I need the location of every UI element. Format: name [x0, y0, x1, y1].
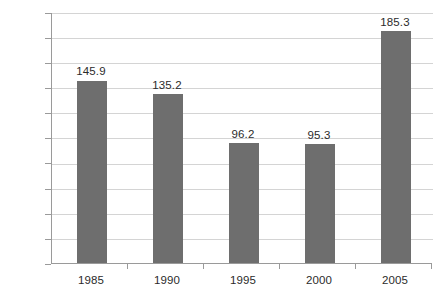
x-tick-mark	[127, 264, 128, 269]
bar-1995	[229, 143, 259, 263]
x-tick-mark	[355, 264, 356, 269]
y-tick-mark	[45, 264, 51, 265]
x-tick-mark	[203, 264, 204, 269]
gridline	[52, 13, 433, 14]
x-tick-label-1995: 1995	[208, 275, 278, 287]
x-tick-label-2005: 2005	[360, 275, 430, 287]
x-tick-mark	[431, 264, 432, 269]
gridline	[52, 38, 433, 39]
gridline	[52, 88, 433, 89]
bar-2005	[381, 31, 411, 263]
bar-chart: 200 180 160 140 120 100 80 60 40 20 0	[0, 0, 448, 303]
x-tick-label-1990: 1990	[132, 275, 202, 287]
x-tick-mark	[279, 264, 280, 269]
bar-value-label-1990: 135.2	[132, 80, 202, 92]
bar-value-label-1985: 145.9	[56, 66, 126, 78]
bar-value-label-2000: 95.3	[284, 130, 354, 142]
x-tick-label-2000: 2000	[284, 275, 354, 287]
x-tick-label-1985: 1985	[56, 275, 126, 287]
bar-2000	[305, 144, 335, 263]
gridline	[52, 63, 433, 64]
bar-1985	[77, 81, 107, 263]
gridline	[52, 113, 433, 114]
bar-value-label-2005: 185.3	[360, 17, 430, 29]
bar-value-label-1995: 96.2	[208, 129, 278, 141]
bar-1990	[153, 94, 183, 263]
